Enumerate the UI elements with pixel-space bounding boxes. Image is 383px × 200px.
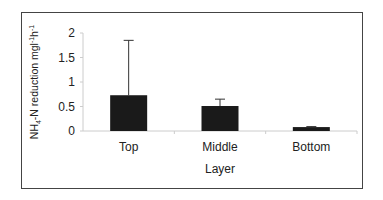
category-label: Top [119, 140, 139, 154]
y-tick-label: 1 [68, 75, 75, 89]
bar-top [110, 95, 147, 131]
y-tick-label: 0.5 [58, 100, 75, 114]
bar-middle [202, 106, 239, 131]
bar-chart: 00.511.52 TopMiddleBottom Layer NH4-N re… [0, 0, 383, 200]
category-labels: TopMiddleBottom [119, 140, 330, 154]
y-ticks: 00.511.52 [58, 26, 83, 138]
y-tick-label: 0 [68, 124, 75, 138]
category-label: Bottom [292, 140, 330, 154]
y-tick-label: 2 [68, 26, 75, 40]
bars [110, 40, 357, 134]
y-tick-label: 1.5 [58, 51, 75, 65]
category-label: Middle [202, 140, 238, 154]
x-axis-label: Layer [205, 162, 235, 176]
bar-bottom [293, 127, 330, 131]
y-axis-label: NH4-N reduction mgl-1h-1 [28, 25, 42, 140]
